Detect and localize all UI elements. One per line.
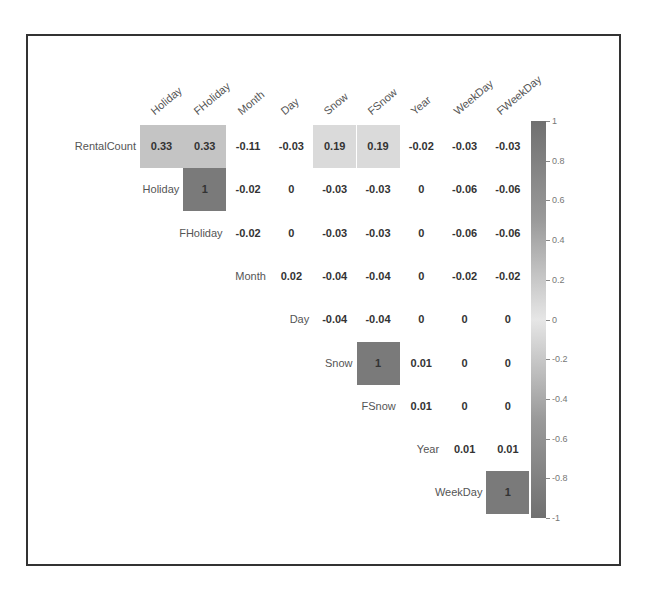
heatmap-cell: 0 — [400, 168, 443, 211]
heatmap-cell: 0.19 — [313, 125, 356, 168]
row-label: Day — [189, 298, 309, 341]
colorbar-tick-label: -1 — [552, 513, 560, 523]
heatmap-cell: -0.04 — [357, 255, 400, 298]
colorbar-tick — [546, 359, 550, 360]
heatmap-cell: -0.02 — [227, 212, 270, 255]
colorbar-tick — [546, 121, 550, 122]
heatmap-cell: 0.19 — [357, 125, 400, 168]
heatmap-cell: 0 — [400, 298, 443, 341]
colorbar-tick-label: 0.8 — [552, 156, 565, 166]
row-label: WeekDay — [362, 471, 482, 514]
heatmap-cell: -0.06 — [443, 168, 486, 211]
colorbar-tick — [546, 518, 550, 519]
heatmap-cell: 1 — [183, 168, 226, 211]
row-label: Year — [319, 428, 439, 471]
heatmap-cell: -0.02 — [486, 255, 529, 298]
colorbar-tick — [546, 240, 550, 241]
row-label: Month — [146, 255, 266, 298]
heatmap-cell: 0 — [400, 212, 443, 255]
colorbar-tick — [546, 200, 550, 201]
heatmap-cell: -0.03 — [270, 125, 313, 168]
heatmap-cell: 0 — [270, 212, 313, 255]
heatmap-cell: 0.33 — [140, 125, 183, 168]
heatmap-cell: -0.06 — [486, 168, 529, 211]
row-label: Snow — [233, 342, 353, 385]
colorbar-tick-label: 0.4 — [552, 235, 565, 245]
heatmap-cell: 0 — [400, 255, 443, 298]
heatmap-cell: -0.03 — [357, 168, 400, 211]
colorbar-tick-label: 0.6 — [552, 195, 565, 205]
row-label: Holiday — [59, 168, 179, 211]
heatmap-cell: -0.04 — [313, 298, 356, 341]
heatmap-cell: -0.03 — [313, 212, 356, 255]
heatmap-cell: 0 — [270, 168, 313, 211]
colorbar-tick — [546, 439, 550, 440]
colorbar-tick-label: -0.4 — [552, 394, 568, 404]
heatmap-cell: -0.02 — [443, 255, 486, 298]
heatmap-cell: 0.01 — [400, 385, 443, 428]
colorbar-tick — [546, 161, 550, 162]
heatmap-cell: 0.33 — [183, 125, 226, 168]
colorbar-tick-label: -0.6 — [552, 434, 568, 444]
heatmap-cell: 0 — [443, 342, 486, 385]
heatmap-cell: 0.02 — [270, 255, 313, 298]
heatmap-cell: 1 — [357, 342, 400, 385]
heatmap-cell: -0.03 — [357, 212, 400, 255]
heatmap-cell: -0.02 — [227, 168, 270, 211]
row-label: RentalCount — [16, 125, 136, 168]
colorbar-tick-label: -0.8 — [552, 473, 568, 483]
heatmap-cell: 1 — [486, 471, 529, 514]
row-label: FSnow — [276, 385, 396, 428]
colorbar-gradient — [531, 121, 546, 518]
heatmap-cell: 0.01 — [400, 342, 443, 385]
colorbar-tick-label: -0.2 — [552, 354, 568, 364]
heatmap-cell: -0.04 — [357, 298, 400, 341]
heatmap-cell: -0.04 — [313, 255, 356, 298]
heatmap-cell: 0.01 — [443, 428, 486, 471]
heatmap-cell: -0.03 — [486, 125, 529, 168]
colorbar-tick-label: 0.2 — [552, 275, 565, 285]
heatmap-cell: -0.02 — [400, 125, 443, 168]
heatmap-cell: -0.11 — [227, 125, 270, 168]
colorbar-tick — [546, 399, 550, 400]
colorbar-tick-label: 1 — [552, 116, 557, 126]
heatmap-cell: -0.03 — [443, 125, 486, 168]
heatmap-cell: -0.06 — [443, 212, 486, 255]
heatmap-cell: 0 — [486, 342, 529, 385]
colorbar-tick — [546, 280, 550, 281]
heatmap-cell: -0.03 — [313, 168, 356, 211]
row-label: FHoliday — [103, 212, 223, 255]
colorbar-tick-label: 0 — [552, 315, 557, 325]
colorbar-tick — [546, 478, 550, 479]
heatmap-cell: 0 — [443, 385, 486, 428]
heatmap-cell: 0 — [486, 385, 529, 428]
heatmap-cell: 0 — [486, 298, 529, 341]
heatmap-cell: 0 — [443, 298, 486, 341]
heatmap-cell: -0.06 — [486, 212, 529, 255]
heatmap-cell: 0.01 — [486, 428, 529, 471]
colorbar-tick — [546, 320, 550, 321]
